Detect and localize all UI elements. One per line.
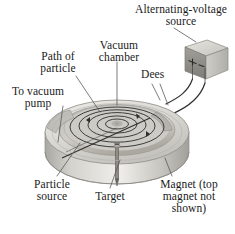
label-vacuum-chamber: Vacuum chamber bbox=[92, 39, 146, 63]
cyclotron-body bbox=[45, 100, 189, 186]
leader-dees-b bbox=[160, 84, 168, 105]
wire-positive bbox=[166, 79, 193, 104]
label-to-vacuum-pump: To vacuum pump bbox=[2, 85, 74, 109]
leader-dees-a bbox=[152, 84, 160, 100]
label-magnet: Magnet (top magnet not shown) bbox=[146, 178, 232, 215]
source-wires bbox=[166, 79, 205, 114]
leader-alternating-voltage bbox=[174, 28, 196, 42]
spiral-center bbox=[110, 121, 124, 127]
label-dees: Dees bbox=[141, 68, 181, 80]
label-particle-source: Particle source bbox=[19, 178, 85, 202]
label-alternating-voltage-source: Alternating-voltage source bbox=[128, 3, 234, 27]
alternating-voltage-source-box bbox=[185, 40, 228, 83]
label-path-of-particle: Path of particle bbox=[29, 50, 87, 74]
cyclotron-diagram: Alternating-voltage source Vacuum chambe… bbox=[0, 0, 235, 234]
label-target: Target bbox=[86, 190, 134, 202]
